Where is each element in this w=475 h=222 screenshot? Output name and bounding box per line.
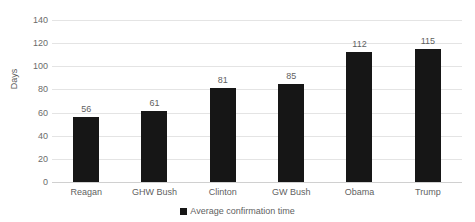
bar[interactable] xyxy=(141,111,167,182)
legend-swatch-icon xyxy=(180,208,187,215)
bar-value-label: 56 xyxy=(52,104,120,115)
y-axis-tick-label: 0 xyxy=(22,177,48,187)
bar[interactable] xyxy=(73,117,99,182)
x-axis-category-label: Trump xyxy=(394,186,462,198)
y-axis-tick-label: 20 xyxy=(22,154,48,164)
bar[interactable] xyxy=(415,49,441,182)
bar-group: 61 xyxy=(120,20,188,182)
plot-area: 56618185112115 xyxy=(52,20,462,182)
x-axis-category-label: GHW Bush xyxy=(120,186,188,198)
y-axis-tick-label: 60 xyxy=(22,108,48,118)
y-axis-tick-label: 100 xyxy=(22,61,48,71)
bar-value-label: 115 xyxy=(394,36,462,47)
bar-group: 81 xyxy=(189,20,257,182)
bar-chart: Days 020406080100120140 56618185112115 R… xyxy=(0,0,475,222)
chart-legend: Average confirmation time xyxy=(0,204,475,218)
legend-label: Average confirmation time xyxy=(190,206,294,217)
bar-value-label: 81 xyxy=(189,75,257,86)
bar[interactable] xyxy=(346,52,372,182)
bar-group: 115 xyxy=(394,20,462,182)
y-axis-tick-label: 140 xyxy=(22,15,48,25)
bar-value-label: 85 xyxy=(257,71,325,82)
bar-group: 56 xyxy=(52,20,120,182)
bar-value-label: 61 xyxy=(120,98,188,109)
bar-group: 85 xyxy=(257,20,325,182)
x-axis-category-labels: ReaganGHW BushClintonGW BushObamaTrump xyxy=(52,186,462,200)
y-axis-tick-label: 120 xyxy=(22,38,48,48)
x-axis-category-label: Clinton xyxy=(189,186,257,198)
x-axis-category-label: GW Bush xyxy=(257,186,325,198)
bar-group: 112 xyxy=(325,20,393,182)
bar[interactable] xyxy=(210,88,236,182)
y-axis-tick-labels: 020406080100120140 xyxy=(18,20,48,182)
bar-value-label: 112 xyxy=(325,39,393,50)
x-axis-category-label: Reagan xyxy=(52,186,120,198)
y-axis-tick-label: 80 xyxy=(22,84,48,94)
y-axis-tick-label: 40 xyxy=(22,131,48,141)
bar[interactable] xyxy=(278,84,304,182)
x-axis-category-label: Obama xyxy=(325,186,393,198)
gridline xyxy=(52,182,462,183)
